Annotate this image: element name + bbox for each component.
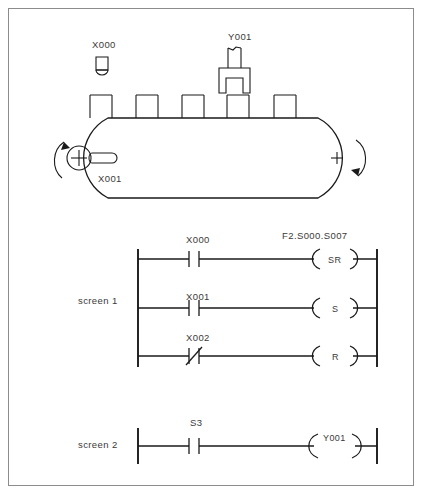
screen-2-rung-1: S3 Y001 (138, 417, 377, 458)
screen-1-rung-3: X002 R (138, 332, 377, 366)
conveyor-parts (90, 95, 296, 118)
encoder-x001-icon (67, 146, 117, 170)
rung-1-coil-label: F2.S000.S007 (282, 230, 348, 241)
rung-3-contact-label: X002 (186, 332, 210, 343)
rung-1-contact-label: X000 (186, 234, 210, 245)
sensor-x000-label: X000 (92, 39, 116, 50)
rung-3-coil-type: R (332, 352, 339, 362)
diagram-artwork: X000 Y001 (0, 0, 424, 495)
screen-2-coil-type: Y001 (323, 433, 346, 443)
screen-1-rung-2: X001 S (138, 291, 377, 318)
actuator-y001-label: Y001 (228, 31, 252, 42)
actuator-y001-icon (219, 47, 250, 93)
screen-2-contact-label: S3 (190, 417, 202, 428)
sensor-x000-icon (96, 57, 108, 75)
screen-2-label: screen 2 (78, 439, 118, 450)
rotation-arrow-right-icon (351, 140, 366, 176)
figure-canvas: X000 Y001 (0, 0, 424, 495)
screen-1-rung-1: X000 F2.S000.S007 SR (138, 230, 377, 269)
rung-2-coil-type: S (332, 304, 338, 314)
encoder-x001-label: X001 (98, 173, 122, 184)
conveyor-belt (84, 118, 343, 198)
idler-pulley-mark (331, 152, 343, 164)
rung-1-coil-type: SR (328, 255, 341, 265)
screen-1-label: screen 1 (78, 295, 118, 306)
